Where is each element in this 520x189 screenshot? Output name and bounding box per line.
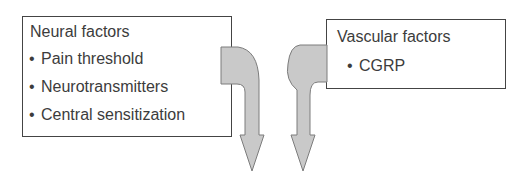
vascular-down-arrow-icon xyxy=(287,45,327,171)
neural-down-arrow-icon xyxy=(221,47,264,171)
arrows-layer xyxy=(0,0,520,189)
